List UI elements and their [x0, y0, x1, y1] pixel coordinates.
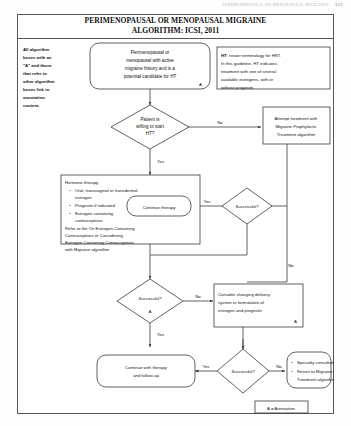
start-line: Perimenopausal or — [131, 50, 170, 55]
specialty-bullet-line: Return to Migraine — [297, 369, 333, 374]
decision-successful-2-shape — [117, 279, 183, 323]
continue-followup-shape — [97, 355, 195, 387]
edge-label-willing-yes: Yes — [157, 159, 165, 164]
page-number: 211 — [335, 2, 343, 7]
edge-label-successful1-no: No — [288, 263, 294, 268]
figure-title-line-1: PERIMENOPAUSAL OR MENOPAUSAL MIGRAINE — [85, 16, 267, 26]
continue-followup-line: and follow-up — [133, 373, 159, 378]
hormone-therapy-bullet-line: Estrogen-containing — [75, 211, 114, 216]
ht-note-line: treatment with one of several — [221, 69, 276, 74]
note-ht-definition: HT: newer terminology for HRT. In this g… — [217, 47, 330, 90]
running-head-title: PERIMENOPAUSAL OR MENOPAUSAL MIGRAINE — [222, 2, 328, 7]
node-continue-therapy[interactable]: Continue therapy — [127, 196, 191, 216]
note-line: other algorithm — [23, 79, 55, 84]
node-decision-successful-1[interactable]: Successful? — [222, 188, 272, 224]
start-line: potential candidate for HT — [124, 74, 177, 79]
consider-changing-line: Consider changing delivery — [218, 292, 271, 297]
figure-title-line-2: ALGORITHM: ICSI, 2011 — [132, 26, 220, 36]
continue-therapy-line: Continue therapy — [143, 205, 177, 210]
hormone-therapy-bullet-line: Progestin if indicated — [75, 203, 115, 208]
edge-label-willing-no: No — [217, 120, 223, 125]
ht-note-first-line: HT: newer terminology for HRT. — [221, 53, 281, 58]
node-decision-successful-2[interactable]: Successful? A — [117, 279, 183, 323]
node-decision-successful-3[interactable]: Successful? — [217, 349, 269, 393]
decision-successful-1-line: Successful? — [235, 204, 259, 209]
ht-note-line: available estrogens, with or — [221, 77, 274, 82]
consider-changing-line: system or formulation of — [218, 300, 265, 305]
decision-willing-line: HT? — [146, 131, 155, 136]
start-line: menopausal with active — [126, 58, 174, 63]
hormone-therapy-heading: Hormone therapy — [65, 180, 99, 185]
edge-label-successful3-yes: Yes — [202, 364, 210, 369]
ht-note-line: In this guideline, HT indicates — [221, 61, 277, 66]
figure-title: PERIMENOPAUSAL OR MENOPAUSAL MIGRAINE AL… — [17, 14, 334, 39]
specialty-bullet-line: Specialty consultation — [297, 360, 334, 365]
prophylactic-line: Migraine Prophylactic — [275, 124, 317, 129]
legend-text: A = Annotation — [267, 406, 295, 411]
start-line: migraine history and is a — [125, 66, 175, 71]
consider-changing-shape — [214, 284, 303, 327]
edge-label-successful3-no: No — [276, 364, 282, 369]
hormone-therapy-footer-line: Refer to the On Estrogen-Containing — [65, 226, 135, 231]
decision-willing-line: Patient is — [141, 117, 161, 122]
figure-page: PERIMENOPAUSAL OR MENOPAUSAL MIGRAINE 21… — [0, 0, 351, 426]
note-line: All algorithm — [23, 47, 49, 52]
node-decision-willing[interactable]: Patient is willing to start HT? — [111, 105, 189, 149]
node-specialty[interactable]: • Specialty consultation • Return to Mig… — [287, 352, 334, 388]
consider-changing-annotation-marker: A — [294, 319, 297, 324]
edge-label-successful2-no: No — [195, 294, 201, 299]
specialty-bullet-line: Treatment algorithm — [297, 377, 334, 382]
hormone-therapy-footer-line: Estrogen-Containing Contraceptives — [65, 240, 134, 245]
consider-changing-line: estrogen and progestin — [218, 308, 263, 313]
note-line: boxes link to — [23, 87, 50, 92]
node-consider-changing[interactable]: Consider changing delivery system or for… — [214, 284, 303, 327]
ht-note-line: : newer terminology for HRT. — [227, 53, 281, 58]
edge-label-successful1-yes: Yes — [203, 199, 211, 204]
prophylactic-line: Attempt treatment with — [275, 116, 319, 121]
hormone-therapy-footer-line: Contraceptives or Considering — [65, 233, 123, 238]
legend-annotation-key: A = Annotation — [255, 401, 308, 413]
note-line: content. — [23, 103, 40, 108]
decision-willing-line: willing to start — [136, 124, 165, 129]
hormone-therapy-bullet-line: Oral, transvaginal or transdermal — [75, 188, 138, 193]
node-continue-followup[interactable]: Continue with therapy and follow-up — [97, 355, 195, 387]
decision-successful-2-annotation-marker: A — [149, 309, 152, 314]
note-line: that refer to — [23, 71, 47, 76]
decision-successful-3-line: Successful? — [231, 369, 255, 374]
node-prophylactic[interactable]: Attempt treatment with Migraine Prophyla… — [263, 107, 330, 144]
note-line: boxes with an — [23, 55, 52, 60]
note-algorithm-annotation: All algorithm boxes with an "A" and thos… — [23, 47, 55, 108]
edge-label-successful2-yes: Yes — [157, 332, 165, 337]
running-head: PERIMENOPAUSAL OR MENOPAUSAL MIGRAINE 21… — [222, 2, 343, 7]
note-line: "A" and those — [23, 63, 52, 68]
ht-note-line: without progestin. — [221, 85, 255, 90]
hormone-therapy-footer-line: with Migraine algorithm — [65, 247, 110, 252]
hormone-therapy-bullet-line: estrogen — [75, 195, 92, 200]
prophylactic-line: Treatment algorithm — [277, 132, 316, 137]
continue-followup-line: Continue with therapy — [125, 365, 167, 370]
note-line: annotation — [23, 95, 45, 100]
decision-successful-2-line: Successful? — [138, 296, 162, 301]
node-start[interactable]: Perimenopausal or menopausal with active… — [90, 43, 210, 89]
flowchart-canvas: All algorithm boxes with an "A" and thos… — [17, 39, 334, 414]
start-annotation-marker: A — [199, 82, 202, 87]
hormone-therapy-bullet-line: contraceptives — [75, 218, 103, 223]
